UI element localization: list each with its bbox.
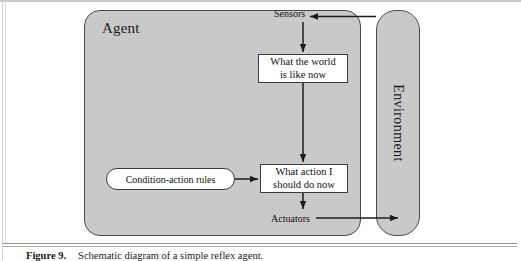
caption-divider-upper xyxy=(3,243,517,244)
node-action-text: What action Ishould do now xyxy=(273,166,335,191)
schematic-diagram: Agent Environment Sensors Actuators What… xyxy=(0,0,521,243)
node-world-line2: is like now xyxy=(280,69,326,80)
actuators-label: Actuators xyxy=(271,213,310,224)
figure-caption: Figure 9.Schematic diagram of a simple r… xyxy=(26,250,506,261)
node-what-action-i-should-do-now: What action Ishould do now xyxy=(260,164,348,193)
sensors-label: Sensors xyxy=(274,8,305,19)
environment-label: Environment xyxy=(376,10,420,236)
node-world-text: What the worldis like now xyxy=(270,56,335,81)
figure-page: Agent Environment Sensors Actuators What… xyxy=(0,0,521,261)
caption-text: Schematic diagram of a simple reflex age… xyxy=(78,250,263,261)
node-condition-action-rules: Condition-action rules xyxy=(106,168,235,190)
agent-container xyxy=(84,10,361,236)
node-world-line1: What the world xyxy=(270,56,335,67)
caption-label: Figure 9. xyxy=(26,250,66,261)
node-rules-text: Condition-action rules xyxy=(126,174,216,185)
node-what-the-world-is-like-now: What the worldis like now xyxy=(258,54,348,83)
agent-label: Agent xyxy=(102,20,140,37)
caption-divider-lower xyxy=(3,246,517,247)
node-action-line2: should do now xyxy=(273,179,335,190)
node-action-line1: What action I xyxy=(275,166,332,177)
